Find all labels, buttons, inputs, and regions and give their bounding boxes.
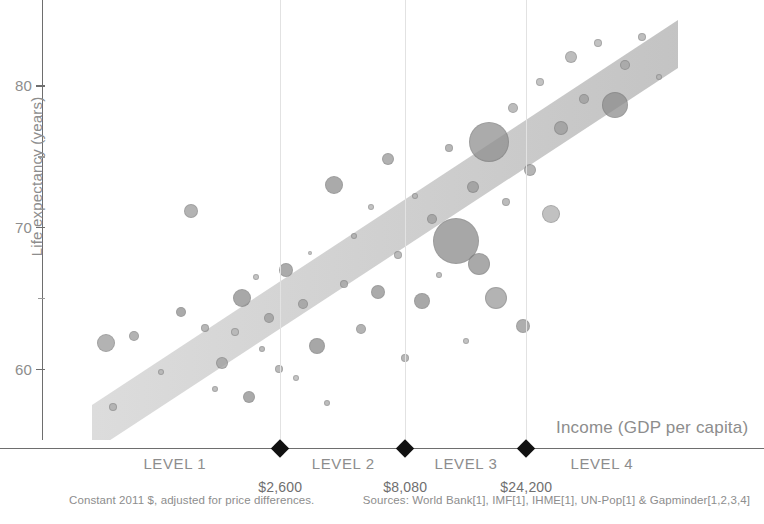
- bubble-point[interactable]: [485, 287, 507, 309]
- x-axis-title: Income (GDP per capita): [556, 418, 748, 438]
- bubble-point[interactable]: [602, 92, 628, 118]
- bubble-chart-figure: 807060 Life expectancy (years) Income (G…: [0, 0, 764, 524]
- level-boundary-marker[interactable]: [271, 439, 289, 457]
- bubble-point[interactable]: [565, 51, 577, 63]
- bubble-point[interactable]: [351, 233, 357, 239]
- bubble-point[interactable]: [508, 103, 518, 113]
- y-tick-60: [36, 369, 45, 370]
- y-axis-title: Life expectancy (years): [28, 77, 45, 277]
- bubble-point[interactable]: [176, 307, 186, 317]
- bubble-point[interactable]: [231, 328, 239, 336]
- income-level-label-1: LEVEL 1: [143, 455, 206, 472]
- bubble-point[interactable]: [216, 357, 228, 369]
- income-level-label-2: LEVEL 2: [312, 455, 375, 472]
- bubble-point[interactable]: [233, 289, 251, 307]
- bubble-point[interactable]: [594, 39, 602, 47]
- bubble-point[interactable]: [436, 272, 442, 278]
- bubble-point[interactable]: [371, 285, 385, 299]
- level-boundary-value: $24,200: [500, 479, 552, 495]
- bubble-point[interactable]: [463, 338, 469, 344]
- bubble-point[interactable]: [253, 274, 259, 280]
- bubble-point[interactable]: [309, 338, 325, 354]
- bubble-point[interactable]: [109, 403, 117, 411]
- bubble-point[interactable]: [129, 331, 139, 341]
- bubble-point[interactable]: [468, 253, 490, 275]
- bubble-point[interactable]: [469, 122, 509, 162]
- bubble-point[interactable]: [212, 386, 218, 392]
- bubble-point[interactable]: [97, 334, 115, 352]
- trend-band: [42, 0, 720, 440]
- bubble-point[interactable]: [324, 400, 330, 406]
- bubble-point[interactable]: [620, 60, 630, 70]
- bubble-point[interactable]: [516, 319, 530, 333]
- bubble-point[interactable]: [259, 346, 265, 352]
- bubble-point[interactable]: [340, 280, 348, 288]
- level-boundary-value: $8,080: [383, 479, 427, 495]
- bubble-point[interactable]: [325, 176, 343, 194]
- x-axis-line: [0, 448, 764, 449]
- y-tick-65: [38, 298, 45, 299]
- level-divider: [280, 0, 281, 448]
- bubble-point[interactable]: [201, 324, 209, 332]
- plot-area: [42, 0, 720, 440]
- bubble-point[interactable]: [502, 198, 510, 206]
- bubble-point[interactable]: [368, 204, 374, 210]
- level-boundary-marker[interactable]: [396, 439, 414, 457]
- bubble-point[interactable]: [414, 293, 430, 309]
- bubble-point[interactable]: [243, 391, 255, 403]
- bubble-point[interactable]: [394, 251, 402, 259]
- income-level-label-4: LEVEL 4: [570, 455, 633, 472]
- level-divider: [405, 0, 406, 448]
- footnote-right: Sources: World Bank[1], IMF[1], IHME[1],…: [363, 494, 750, 506]
- bubble-point[interactable]: [542, 205, 560, 223]
- level-divider: [526, 0, 527, 448]
- bubble-point[interactable]: [308, 251, 312, 255]
- bubble-point[interactable]: [445, 144, 453, 152]
- bubble-point[interactable]: [467, 181, 479, 193]
- bubble-point[interactable]: [356, 324, 366, 334]
- bubble-point[interactable]: [184, 204, 198, 218]
- bubble-point[interactable]: [579, 94, 589, 104]
- bubble-point[interactable]: [656, 74, 662, 80]
- level-boundary-marker[interactable]: [517, 439, 535, 457]
- bubble-point[interactable]: [536, 78, 544, 86]
- bubble-point[interactable]: [412, 193, 418, 199]
- bubble-point[interactable]: [293, 375, 299, 381]
- level-boundary-value: $2,600: [258, 479, 302, 495]
- bubble-point[interactable]: [158, 369, 164, 375]
- footnote-left: Constant 2011 $, adjusted for price diff…: [69, 494, 314, 506]
- bubble-point[interactable]: [427, 214, 437, 224]
- bubble-point[interactable]: [264, 313, 274, 323]
- income-level-label-3: LEVEL 3: [435, 455, 498, 472]
- bubble-point[interactable]: [298, 299, 308, 309]
- y-tick-label-60: 60: [0, 361, 32, 378]
- bubble-point[interactable]: [382, 153, 394, 165]
- bubble-point[interactable]: [554, 121, 568, 135]
- bubble-point[interactable]: [638, 33, 646, 41]
